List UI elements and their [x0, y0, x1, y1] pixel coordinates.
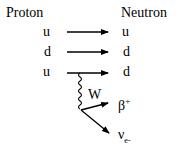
positron-label: β+ [118, 97, 130, 113]
diagram-lines [0, 0, 182, 153]
positron-charge: + [125, 96, 130, 106]
w-boson-label: W [88, 88, 101, 102]
neutrino-label: νe- [118, 128, 131, 145]
w-boson-wavy-line [79, 73, 82, 109]
neutrino-flavor: e- [124, 136, 130, 145]
arrow-neutrino [81, 110, 109, 133]
arrow-positron [81, 103, 108, 110]
